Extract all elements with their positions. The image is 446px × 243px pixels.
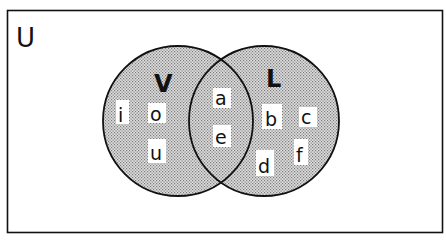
element-i: i bbox=[118, 104, 123, 126]
element-c: c bbox=[301, 106, 311, 128]
set-l-label: L bbox=[266, 65, 281, 93]
element-a: a bbox=[215, 87, 227, 109]
venn-diagram: U V L i o u a e b c d f bbox=[0, 0, 446, 243]
element-b: b bbox=[265, 108, 277, 130]
element-e: e bbox=[215, 126, 227, 148]
universe-label: U bbox=[16, 23, 35, 53]
element-o: o bbox=[150, 103, 162, 125]
element-d: d bbox=[258, 155, 270, 177]
set-v-label: V bbox=[154, 70, 173, 98]
element-u: u bbox=[150, 142, 162, 164]
